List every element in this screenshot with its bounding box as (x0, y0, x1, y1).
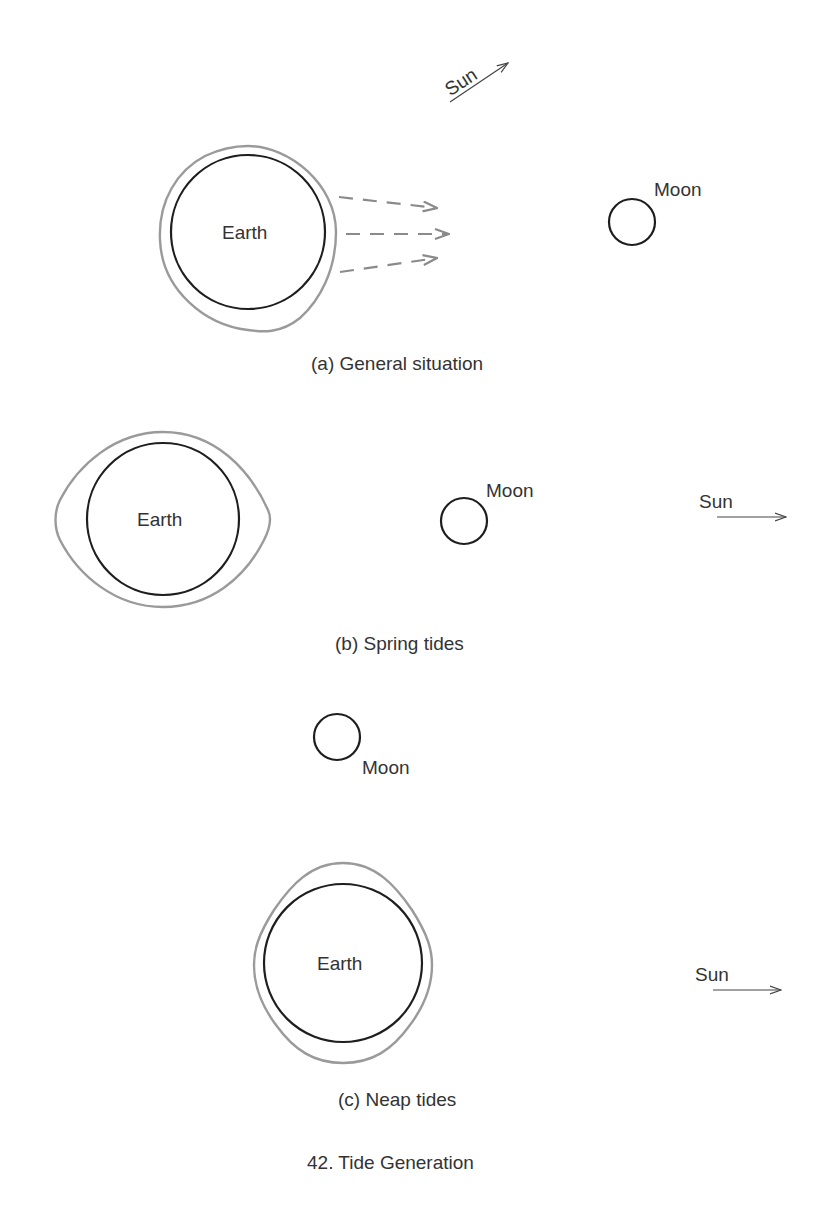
earth-label: Earth (222, 223, 267, 242)
moon-circle (314, 714, 360, 760)
panel-c-neap-tides (254, 714, 781, 1063)
moon-label: Moon (362, 758, 410, 777)
caption-c: (c) Neap tides (338, 1090, 456, 1109)
caption-b: (b) Spring tides (335, 634, 464, 653)
moon-circle (609, 199, 655, 245)
sun-label: Sun (699, 492, 733, 511)
moon-circle (441, 498, 487, 544)
sun-label: Sun (695, 965, 729, 984)
tide-diagram (0, 0, 831, 1215)
earth-label: Earth (137, 510, 182, 529)
panel-a-general-situation (160, 63, 655, 331)
moon-label: Moon (654, 180, 702, 199)
earth-label: Earth (317, 954, 362, 973)
tidal-force-arrows (339, 197, 449, 272)
caption-a: (a) General situation (311, 354, 483, 373)
figure-title: 42. Tide Generation (307, 1153, 474, 1172)
moon-label: Moon (486, 481, 534, 500)
